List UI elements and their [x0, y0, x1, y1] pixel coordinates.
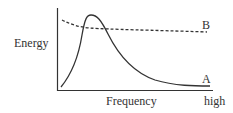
curve-a [61, 15, 210, 87]
x-axis-high-label: high [204, 95, 225, 107]
x-axis-label: Frequency [106, 95, 157, 107]
curve-b-label: B [202, 19, 210, 31]
y-axis-label: Energy [14, 37, 48, 49]
curve-a-label: A [202, 73, 211, 85]
